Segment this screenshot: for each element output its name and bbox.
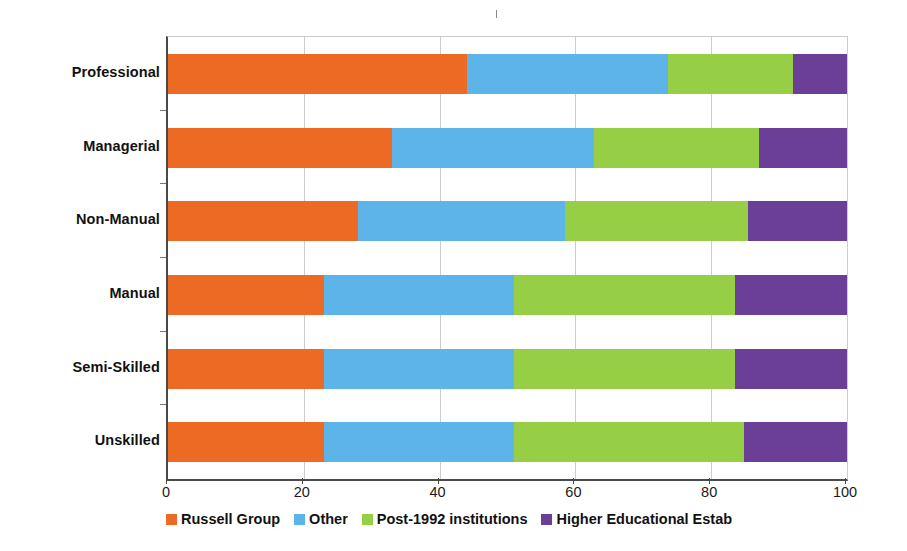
bar-segment [168,275,324,315]
legend-swatch-icon [541,514,552,525]
bar-segment [594,128,759,168]
y-tick-mark [160,331,166,332]
chart-legend: Russell GroupOtherPost-1992 institutions… [166,508,907,530]
bar-segment [168,54,467,94]
bar-segment [514,422,744,462]
bar-segment [324,349,514,389]
gridline [575,37,576,479]
x-tick-label: 0 [162,484,170,500]
plot-area [166,36,848,481]
y-axis-category-label: Professional [4,64,160,80]
bar-segment [324,422,514,462]
bar-segment [514,349,735,389]
legend-item[interactable]: Russell Group [166,511,280,527]
gridline [304,37,305,479]
x-tick-label: 60 [565,484,581,500]
bar-segment [759,128,847,168]
bar-segment [735,275,847,315]
bar-segment [668,54,793,94]
bar-segment [565,201,748,241]
legend-swatch-icon [362,514,373,525]
bar-segment [735,349,847,389]
bar-segment [744,422,847,462]
y-tick-mark [160,183,166,184]
y-tick-mark [160,404,166,405]
x-tick-label: 40 [430,484,446,500]
y-axis-category-label: Manual [4,285,160,301]
bar-stack-row [168,201,847,241]
legend-label: Post-1992 institutions [377,511,528,527]
bar-segment [168,422,324,462]
y-axis-category-label: Managerial [4,138,160,154]
bar-segment [324,275,514,315]
bar-segment [514,275,735,315]
legend-swatch-icon [166,514,177,525]
bar-segment [168,349,324,389]
y-tick-mark [160,257,166,258]
bar-segment [392,128,594,168]
bar-stack-row [168,54,847,94]
y-axis-labels: ProfessionalManagerialNon-ManualManualSe… [0,36,160,478]
y-axis-category-label: Semi-Skilled [4,359,160,375]
gridline [847,37,848,479]
y-axis-category-label: Non-Manual [4,211,160,227]
bar-segment [358,201,565,241]
bar-stack-row [168,128,847,168]
x-tick-label: 20 [294,484,310,500]
legend-label: Russell Group [181,511,280,527]
top-tick-mark [496,10,497,18]
legend-label: Other [309,511,348,527]
bar-stack-row [168,349,847,389]
bar-segment [467,54,668,94]
legend-label: Higher Educational Estab [556,511,732,527]
bar-segment [168,128,392,168]
legend-item[interactable]: Post-1992 institutions [362,511,528,527]
bar-segment [793,54,847,94]
bar-segment [748,201,847,241]
gridline [440,37,441,479]
legend-swatch-icon [294,514,305,525]
stacked-bar-chart: ProfessionalManagerialNon-ManualManualSe… [0,0,907,551]
bar-stack-row [168,422,847,462]
legend-item[interactable]: Higher Educational Estab [541,511,732,527]
x-tick-label: 100 [833,484,857,500]
y-axis-category-label: Unskilled [4,432,160,448]
bar-segment [168,201,358,241]
x-tick-label: 80 [701,484,717,500]
legend-item[interactable]: Other [294,511,348,527]
bar-stack-row [168,275,847,315]
y-tick-mark [160,110,166,111]
gridline [711,37,712,479]
